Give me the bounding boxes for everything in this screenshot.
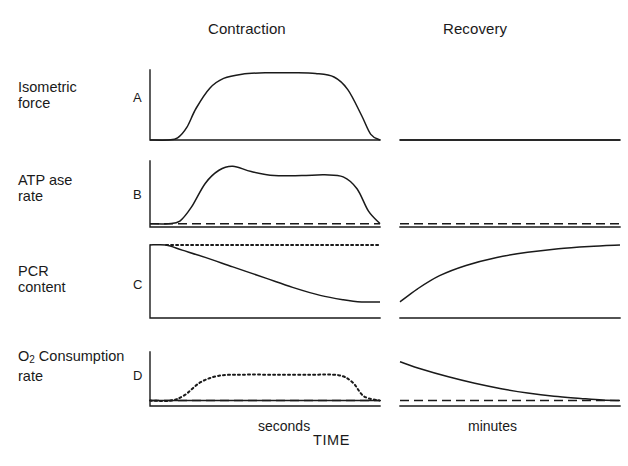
phase-header-recovery: Recovery — [443, 20, 507, 37]
panel-c-ylabel: PCR content — [18, 263, 66, 295]
panel-d-ylabel-line1: O2 Consumption — [18, 348, 124, 368]
axis-label-seconds: seconds — [258, 418, 310, 434]
series-b-solid-contraction — [150, 166, 380, 224]
panel-letter-a: A — [133, 90, 142, 105]
panel-a-ylabel-line2: force — [18, 95, 77, 111]
figure-container: Contraction Recovery Isometric force ATP… — [0, 0, 628, 466]
series-c-solid-contraction — [150, 245, 380, 302]
plot-canvas — [0, 0, 628, 466]
panel-a-ylabel-line1: Isometric — [18, 79, 77, 95]
series-a-solid-contraction — [150, 73, 380, 140]
panel-letter-d: D — [133, 368, 142, 383]
series-d-dotted-contraction — [150, 375, 380, 401]
panel-d-ylabel-consumption: Consumption — [35, 348, 124, 364]
panel-c-ylabel-line2: content — [18, 279, 66, 295]
panel-letter-b: B — [133, 187, 142, 202]
panel-c-ylabel-line1: PCR — [18, 263, 66, 279]
panel-d-ylabel-line2: rate — [18, 368, 124, 384]
series-d-solid-recovery — [400, 362, 620, 401]
phase-header-contraction: Contraction — [208, 20, 286, 37]
series-c-solid-recovery — [400, 245, 620, 302]
axis-label-minutes: minutes — [468, 418, 517, 434]
panel-a-ylabel: Isometric force — [18, 79, 77, 111]
axis-label-time: TIME — [313, 432, 350, 448]
panel-b-ylabel-line2: rate — [18, 188, 72, 204]
panel-letter-c: C — [133, 277, 142, 292]
panel-b-ylabel: ATP ase rate — [18, 172, 72, 204]
panel-d-ylabel: O2 Consumption rate — [18, 348, 124, 384]
panel-d-ylabel-o: O — [18, 348, 29, 364]
panel-b-ylabel-line1: ATP ase — [18, 172, 72, 188]
